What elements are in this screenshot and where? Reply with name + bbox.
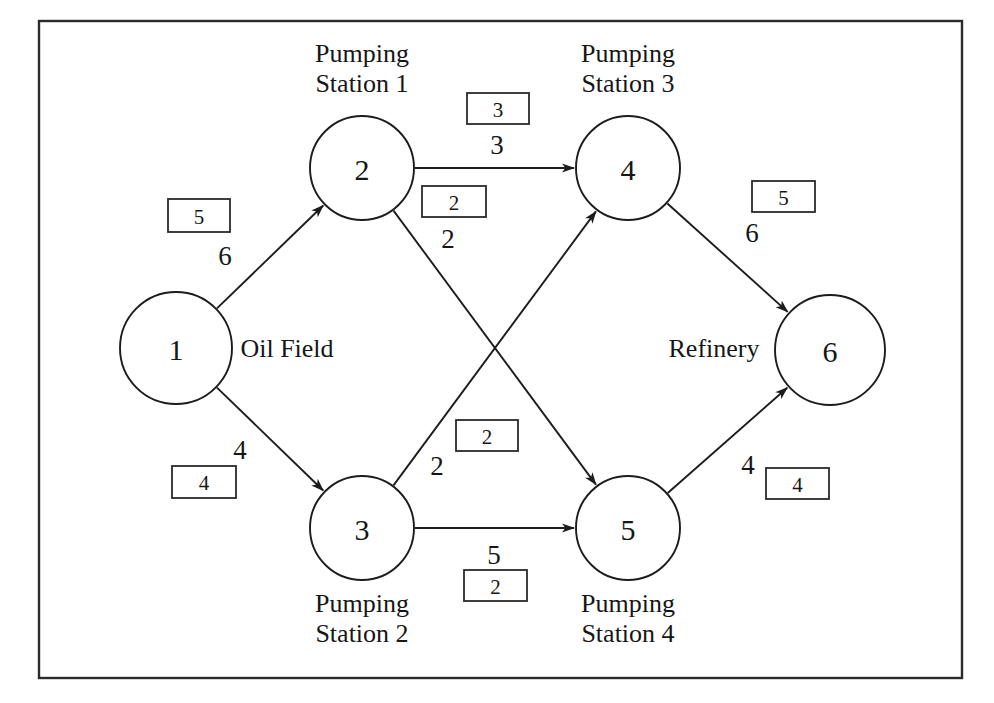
node-1[interactable]: 1	[120, 292, 232, 404]
edge-capacity-box: 3	[467, 93, 529, 124]
edge-capacity-box: 4	[766, 468, 829, 499]
node-number-label: 3	[355, 513, 370, 546]
station-caption-line2: Station 1	[315, 69, 408, 98]
edge-capacity-box: 2	[456, 420, 518, 451]
station-caption-line1: Pumping	[315, 589, 409, 618]
edge-capacity-box: 4	[172, 466, 236, 498]
station-caption-line1: Pumping	[581, 39, 675, 68]
station-caption-5: PumpingStation 4	[581, 589, 675, 648]
station-caption-line2: Station 3	[581, 69, 674, 98]
edge-arrow	[667, 203, 787, 311]
network-diagram-canvas: 123456 6544332222526544Oil FieldRefinery…	[0, 0, 994, 703]
edge-capacity-box: 2	[422, 186, 486, 217]
node-name-label-1: Oil Field	[240, 334, 333, 363]
capacity-value: 2	[449, 191, 460, 215]
capacity-value: 2	[490, 575, 501, 599]
edge-1-to-2	[217, 206, 323, 309]
station-caption-2: PumpingStation 1	[315, 39, 409, 98]
edge-cost-label: 4	[741, 450, 755, 480]
capacity-value: 5	[778, 186, 789, 210]
node-3[interactable]: 3	[310, 476, 414, 580]
node-name-label-6: Refinery	[669, 334, 760, 363]
edge-cost-label: 6	[218, 241, 232, 271]
node-2[interactable]: 2	[310, 116, 414, 220]
capacity-value: 2	[482, 425, 493, 449]
node-6[interactable]: 6	[775, 295, 885, 405]
edge-arrow	[217, 206, 323, 309]
capacity-value: 3	[493, 98, 504, 122]
edge-capacity-box: 2	[464, 570, 527, 601]
node-number-label: 5	[621, 513, 636, 546]
node-4[interactable]: 4	[576, 116, 680, 220]
node-number-label: 6	[823, 335, 838, 368]
node-number-label: 4	[621, 153, 636, 186]
node-number-label: 2	[355, 153, 370, 186]
capacity-value: 4	[792, 473, 803, 497]
edge-cost-label: 3	[490, 130, 504, 160]
network-diagram-figure: 123456 6544332222526544Oil FieldRefinery…	[0, 0, 994, 703]
station-caption-line1: Pumping	[581, 589, 675, 618]
edge-cost-label: 5	[487, 540, 501, 570]
capacity-value: 5	[194, 205, 205, 229]
edge-capacity-box: 5	[752, 181, 815, 212]
edge-cost-label: 6	[745, 218, 759, 248]
station-caption-4: PumpingStation 3	[581, 39, 675, 98]
edge-capacity-box: 5	[168, 199, 230, 232]
edge-cost-label: 4	[233, 435, 247, 465]
station-caption-3: PumpingStation 2	[315, 589, 409, 648]
station-caption-line2: Station 4	[581, 619, 674, 648]
node-5[interactable]: 5	[576, 476, 680, 580]
edge-cost-label: 2	[430, 451, 444, 481]
station-caption-line2: Station 2	[315, 619, 408, 648]
edge-cost-label: 2	[441, 224, 455, 254]
station-caption-line1: Pumping	[315, 39, 409, 68]
node-number-label: 1	[169, 333, 184, 366]
capacity-value: 4	[199, 471, 210, 495]
edge-4-to-6	[667, 203, 787, 311]
